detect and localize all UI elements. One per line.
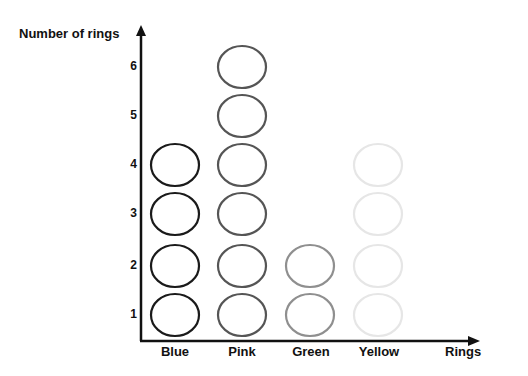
- y-axis-title: Number of rings: [19, 26, 119, 41]
- ring-yellow-3: [354, 193, 402, 235]
- y-tick-2: 2: [125, 258, 137, 272]
- ring-yellow-1: [354, 294, 402, 336]
- ring-pink-3: [218, 193, 266, 235]
- y-tick-4: 4: [125, 157, 137, 171]
- x-axis-title: Rings: [445, 344, 481, 359]
- ring-yellow-4: [354, 144, 402, 186]
- x-tick-blue: Blue: [140, 344, 210, 359]
- ring-pink-2: [218, 245, 266, 287]
- ring-pink-6: [218, 46, 266, 88]
- x-tick-yellow: Yellow: [344, 344, 414, 359]
- ring-blue-1: [151, 294, 199, 336]
- x-tick-pink: Pink: [207, 344, 277, 359]
- x-tick-green: Green: [276, 344, 346, 359]
- y-tick-5: 5: [125, 108, 137, 122]
- y-tick-6: 6: [125, 59, 137, 73]
- ring-pink-5: [218, 95, 266, 137]
- ring-blue-4: [151, 144, 199, 186]
- rings-group: [151, 46, 402, 336]
- pictograph-chart: Number of rings 1 2 3 4 5 6 Blue Pink Gr…: [0, 0, 528, 376]
- ring-yellow-2: [354, 245, 402, 287]
- y-axis-arrow-icon: [136, 25, 146, 36]
- ring-green-1: [286, 294, 334, 336]
- ring-green-2: [286, 245, 334, 287]
- ring-blue-3: [151, 193, 199, 235]
- y-tick-3: 3: [125, 206, 137, 220]
- ring-pink-1: [218, 294, 266, 336]
- ring-blue-2: [151, 245, 199, 287]
- plot-area: [0, 0, 528, 376]
- ring-pink-4: [218, 144, 266, 186]
- y-tick-1: 1: [125, 307, 137, 321]
